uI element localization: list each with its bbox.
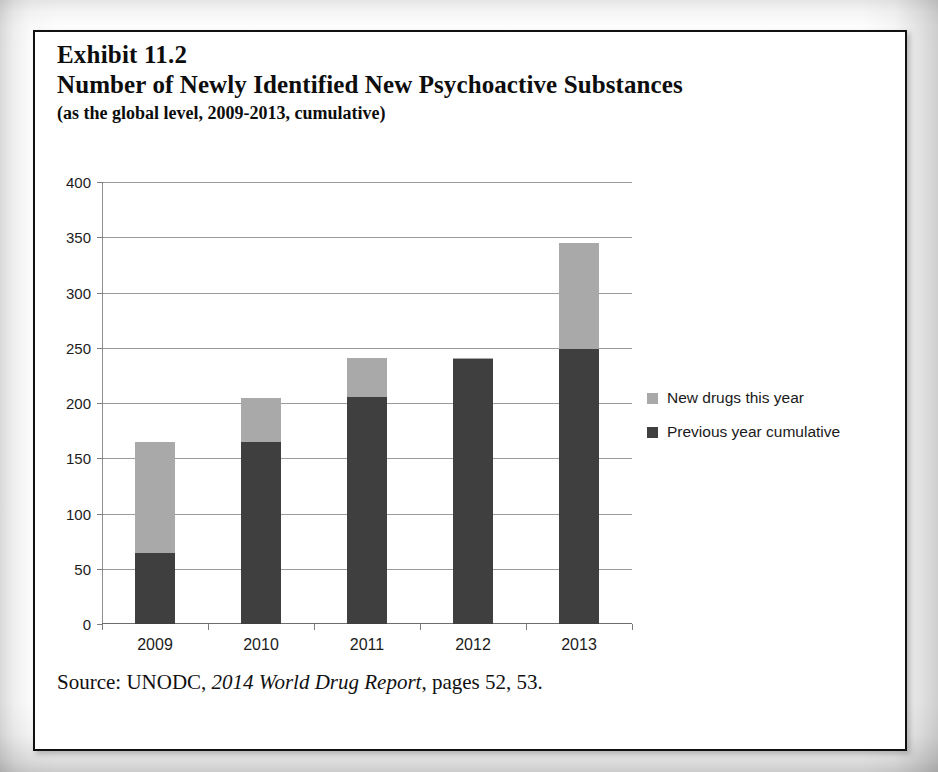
y-tick-mark bbox=[97, 293, 103, 294]
source-suffix: , pages 52, 53. bbox=[421, 670, 542, 694]
bar-segment-new-drugs bbox=[241, 398, 281, 442]
bar-segment-new-drugs bbox=[135, 442, 175, 554]
x-tick-mark bbox=[208, 624, 209, 630]
gridline bbox=[102, 348, 632, 349]
y-axis-tick-label: 100 bbox=[66, 505, 91, 522]
plot-area: 0501001502002503003504002009201020112012… bbox=[102, 182, 632, 624]
bar-stack-2010 bbox=[241, 397, 281, 624]
y-axis-tick-label: 400 bbox=[66, 174, 91, 191]
x-axis-tick-label-2012: 2012 bbox=[455, 636, 491, 654]
legend-swatch-icon bbox=[647, 393, 658, 404]
x-axis-tick-label-2010: 2010 bbox=[243, 636, 279, 654]
y-tick-mark bbox=[97, 237, 103, 238]
bar-segment-new-drugs bbox=[347, 358, 387, 398]
x-tick-mark bbox=[526, 624, 527, 630]
x-axis-tick-label-2009: 2009 bbox=[137, 636, 173, 654]
x-tick-mark bbox=[632, 624, 633, 630]
gridline bbox=[102, 182, 632, 183]
y-axis-tick-label: 50 bbox=[74, 560, 91, 577]
y-axis-tick-label: 200 bbox=[66, 395, 91, 412]
legend-label: Previous year cumulative bbox=[667, 423, 840, 441]
bar-stack-2012 bbox=[453, 358, 493, 624]
y-tick-mark bbox=[97, 569, 103, 570]
y-axis-tick-label: 150 bbox=[66, 450, 91, 467]
bar-segment-previous-cumulative bbox=[559, 349, 599, 624]
y-axis-tick-label: 250 bbox=[66, 339, 91, 356]
chart-area: 0501001502002503003504002009201020112012… bbox=[35, 32, 909, 753]
y-axis-tick-label: 350 bbox=[66, 229, 91, 246]
source-note: Source: UNODC, 2014 World Drug Report, p… bbox=[57, 670, 543, 695]
bar-segment-new-drugs bbox=[453, 358, 493, 359]
bar-stack-2009 bbox=[135, 442, 175, 624]
x-axis-tick-label-2013: 2013 bbox=[561, 636, 597, 654]
exhibit-frame: Exhibit 11.2 Number of Newly Identified … bbox=[33, 30, 907, 751]
legend-swatch-icon bbox=[647, 427, 658, 438]
legend-item-previous-cumulative: Previous year cumulative bbox=[647, 423, 897, 441]
source-report-title: 2014 World Drug Report bbox=[212, 670, 422, 694]
bar-segment-previous-cumulative bbox=[347, 397, 387, 624]
y-tick-mark bbox=[97, 182, 103, 183]
x-axis-tick-label-2011: 2011 bbox=[350, 636, 384, 654]
bar-stack-2011 bbox=[347, 358, 387, 624]
x-tick-mark bbox=[314, 624, 315, 630]
legend-item-new-drugs: New drugs this year bbox=[647, 389, 897, 407]
gridline bbox=[102, 237, 632, 238]
y-axis-tick-label: 300 bbox=[66, 284, 91, 301]
y-tick-mark bbox=[97, 348, 103, 349]
bar-segment-previous-cumulative bbox=[453, 359, 493, 624]
x-tick-mark bbox=[102, 624, 103, 630]
bar-segment-new-drugs bbox=[559, 243, 599, 349]
source-prefix: Source: UNODC, bbox=[57, 670, 206, 694]
y-tick-mark bbox=[97, 514, 103, 515]
y-tick-mark bbox=[97, 458, 103, 459]
bar-stack-2013 bbox=[559, 243, 599, 624]
y-axis-tick-label: 0 bbox=[83, 616, 91, 633]
legend-label: New drugs this year bbox=[667, 389, 804, 407]
x-tick-mark bbox=[420, 624, 421, 630]
bar-segment-previous-cumulative bbox=[241, 442, 281, 624]
bar-segment-previous-cumulative bbox=[135, 553, 175, 624]
y-tick-mark bbox=[97, 403, 103, 404]
chart-legend: New drugs this year Previous year cumula… bbox=[647, 389, 897, 457]
gridline bbox=[102, 293, 632, 294]
